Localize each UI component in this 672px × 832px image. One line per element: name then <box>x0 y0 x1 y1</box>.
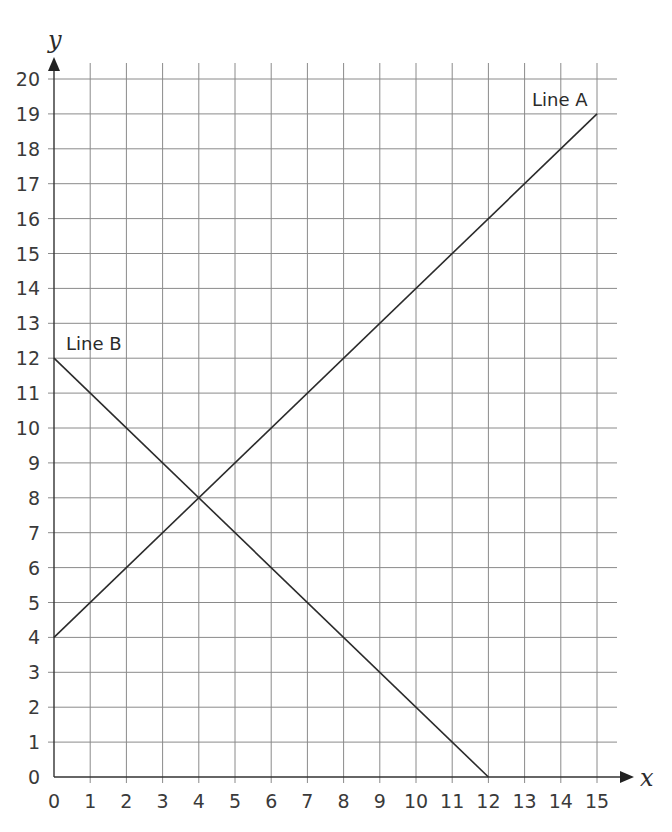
line-a-label: Line A <box>532 89 588 110</box>
x-tick-label: 7 <box>301 790 313 812</box>
x-tick-labels: 0123456789101112131415 <box>48 790 609 812</box>
line-a-series <box>54 114 597 638</box>
y-tick-labels: 01234567891011121314151617181920 <box>16 68 40 788</box>
y-tick-label: 16 <box>16 208 40 230</box>
x-tick-label: 13 <box>513 790 537 812</box>
y-tick-label: 6 <box>28 557 40 579</box>
grid-lines <box>48 63 617 783</box>
y-tick-label: 17 <box>16 173 40 195</box>
x-tick-label: 5 <box>229 790 241 812</box>
y-tick-label: 20 <box>16 68 40 90</box>
x-tick-label: 2 <box>120 790 132 812</box>
x-tick-label: 0 <box>48 790 60 812</box>
y-tick-label: 9 <box>28 452 40 474</box>
x-tick-label: 10 <box>404 790 428 812</box>
y-tick-label: 12 <box>16 347 40 369</box>
x-tick-label: 1 <box>84 790 96 812</box>
y-tick-label: 7 <box>28 522 40 544</box>
y-tick-label: 4 <box>28 626 40 648</box>
x-tick-label: 9 <box>374 790 386 812</box>
x-tick-label: 15 <box>585 790 609 812</box>
y-tick-label: 11 <box>16 382 40 404</box>
x-tick-label: 3 <box>157 790 169 812</box>
y-tick-label: 3 <box>28 661 40 683</box>
x-tick-label: 4 <box>193 790 205 812</box>
x-tick-label: 6 <box>265 790 277 812</box>
y-tick-label: 8 <box>28 487 40 509</box>
x-tick-label: 8 <box>338 790 350 812</box>
x-tick-label: 11 <box>440 790 464 812</box>
y-tick-label: 18 <box>16 138 40 160</box>
y-tick-label: 19 <box>16 103 40 125</box>
line-b-label: Line B <box>66 333 122 354</box>
line-chart: 0123456789101112131415 01234567891011121… <box>0 0 672 832</box>
series-lines <box>54 114 597 777</box>
y-axis-label: y <box>47 26 62 54</box>
x-axis-label: x <box>640 764 654 792</box>
y-tick-label: 0 <box>28 766 40 788</box>
x-tick-label: 14 <box>549 790 573 812</box>
y-tick-label: 15 <box>16 243 40 265</box>
x-tick-label: 12 <box>476 790 500 812</box>
y-tick-label: 1 <box>28 731 40 753</box>
y-tick-label: 14 <box>16 277 40 299</box>
y-tick-label: 10 <box>16 417 40 439</box>
x-axis-arrow-icon <box>620 771 634 783</box>
y-tick-label: 2 <box>28 696 40 718</box>
y-axis-arrow-icon <box>48 57 60 71</box>
y-tick-label: 5 <box>28 592 40 614</box>
y-tick-label: 13 <box>16 312 40 334</box>
